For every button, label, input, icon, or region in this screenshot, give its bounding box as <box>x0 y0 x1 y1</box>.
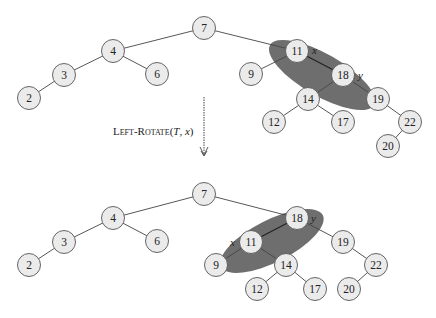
node-19: 19 <box>367 88 390 111</box>
svg-text:20: 20 <box>382 140 394 152</box>
svg-text:2: 2 <box>26 259 32 271</box>
node-22: 22 <box>365 254 388 277</box>
node-12: 12 <box>246 278 269 301</box>
operation-name: Left-Rotate <box>113 125 170 137</box>
svg-text:14: 14 <box>302 93 314 105</box>
tree-after: 7 4 3 2 6 18 11 9 14 12 17 19 22 20 x y <box>18 183 388 301</box>
node-4: 4 <box>102 40 125 63</box>
svg-text:18: 18 <box>291 212 303 224</box>
svg-text:17: 17 <box>309 283 321 295</box>
svg-text:7: 7 <box>201 188 207 200</box>
svg-text:4: 4 <box>110 212 116 224</box>
svg-text:9: 9 <box>248 68 254 80</box>
svg-text:7: 7 <box>201 22 207 34</box>
svg-text:17: 17 <box>337 116 349 128</box>
svg-text:11: 11 <box>291 45 302 57</box>
node-14: 14 <box>297 88 320 111</box>
node-11: 11 <box>240 231 263 254</box>
node-3: 3 <box>53 231 76 254</box>
node-6: 6 <box>146 63 169 86</box>
label-x: x <box>229 236 235 248</box>
svg-text:2: 2 <box>26 92 32 104</box>
svg-text:4: 4 <box>110 45 116 57</box>
node-2: 2 <box>18 87 41 110</box>
svg-text:12: 12 <box>251 283 263 295</box>
tree-before: 7 4 3 2 6 11 9 18 14 12 17 19 22 20 x y <box>18 17 422 158</box>
svg-text:19: 19 <box>337 236 349 248</box>
svg-text:12: 12 <box>268 116 280 128</box>
node-11: 11 <box>286 40 309 63</box>
node-6: 6 <box>146 230 169 253</box>
node-2: 2 <box>18 254 41 277</box>
node-18: 18 <box>332 64 355 87</box>
svg-text:3: 3 <box>61 236 67 248</box>
svg-text:18: 18 <box>337 69 349 81</box>
svg-text:22: 22 <box>370 259 382 271</box>
node-7: 7 <box>193 183 216 206</box>
label-y: y <box>310 212 316 224</box>
svg-text:3: 3 <box>61 69 67 81</box>
svg-text:19: 19 <box>372 93 384 105</box>
node-22: 22 <box>399 111 422 134</box>
node-9: 9 <box>205 254 228 277</box>
node-17: 17 <box>304 278 327 301</box>
label-x: x <box>311 44 317 56</box>
node-20: 20 <box>338 278 361 301</box>
node-9: 9 <box>240 63 263 86</box>
node-17: 17 <box>332 111 355 134</box>
svg-text:11: 11 <box>245 236 256 248</box>
node-7: 7 <box>193 17 216 40</box>
node-12: 12 <box>263 111 286 134</box>
svg-text:14: 14 <box>280 259 292 271</box>
label-y: y <box>357 69 363 81</box>
node-19: 19 <box>332 231 355 254</box>
svg-text:22: 22 <box>404 116 416 128</box>
svg-text:20: 20 <box>343 283 355 295</box>
node-20: 20 <box>377 135 400 158</box>
node-18: 18 <box>286 207 309 230</box>
node-14: 14 <box>275 254 298 277</box>
rotation-diagram: 7 4 3 2 6 11 9 18 14 12 17 19 22 20 x y <box>0 0 436 318</box>
node-3: 3 <box>53 64 76 87</box>
svg-text:6: 6 <box>154 68 160 80</box>
transform-arrow <box>200 97 208 156</box>
node-4: 4 <box>102 207 125 230</box>
svg-text:9: 9 <box>213 259 219 271</box>
svg-text:6: 6 <box>154 235 160 247</box>
operation-caption: Left-Rotate(T, x) <box>113 125 194 137</box>
